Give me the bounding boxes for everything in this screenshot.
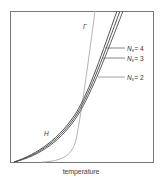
gamma-label: Γ bbox=[83, 23, 87, 30]
plot-frame bbox=[11, 12, 154, 163]
nv2-value: = 2 bbox=[134, 74, 144, 81]
nv3-value: = 3 bbox=[134, 55, 144, 62]
nv4-value: = 4 bbox=[134, 45, 144, 52]
chart: Γ H Nv= 4 Nv= 3 Nv= 2 bbox=[0, 0, 162, 183]
x-axis-label: temperature bbox=[0, 168, 162, 175]
h-label: H bbox=[44, 130, 49, 137]
